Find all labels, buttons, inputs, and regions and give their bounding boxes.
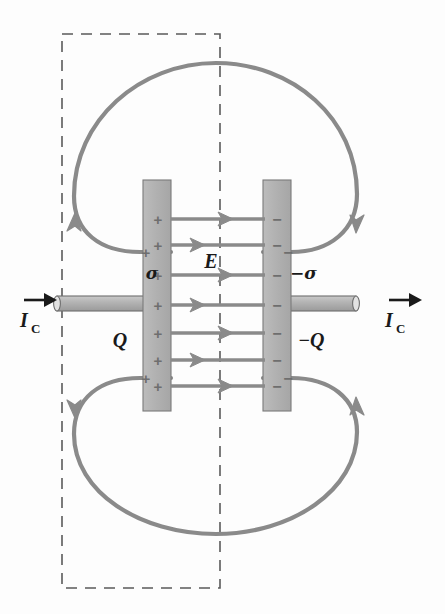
right-wire-end-cap: [353, 296, 360, 311]
minus-sign-icon: −: [272, 352, 281, 369]
figure-root: + + + + + + + + + − − − − − − − − − I: [0, 0, 445, 614]
electric-field-lines: [171, 212, 265, 393]
right-lead-wire: [289, 296, 359, 311]
loop-arrow-upper-right: [350, 215, 364, 233]
plus-sign-icon: +: [154, 297, 163, 314]
left-wire-end-cap: [54, 296, 61, 311]
charge-negative-label: −Q: [298, 329, 325, 351]
current-left-label: I: [19, 309, 29, 331]
plus-sign-icon: +: [154, 325, 163, 342]
electric-field-label: E: [203, 250, 217, 272]
current-right-label: I: [384, 309, 394, 331]
plus-sign-icon: +: [154, 211, 163, 228]
minus-sign-icon: −: [272, 325, 281, 342]
current-right-subscript: C: [396, 321, 405, 336]
plus-sign-icon: +: [154, 378, 163, 395]
minus-sign-icon: −: [272, 237, 281, 254]
minus-sign-icon: −: [272, 297, 281, 314]
plus-sign-icon: +: [154, 237, 163, 254]
minus-sign-icon: −: [272, 267, 281, 284]
field-line: [171, 212, 265, 226]
minus-sign-icon: −: [272, 211, 281, 228]
field-line: [171, 238, 265, 252]
current-left-annotation: I C: [19, 293, 57, 336]
minus-sign-icon: −: [283, 370, 292, 387]
plus-sign-icon: +: [142, 244, 151, 261]
field-line: [171, 353, 265, 367]
field-line: [171, 326, 265, 340]
minus-sign-icon: −: [272, 378, 281, 395]
plus-sign-icon: +: [154, 352, 163, 369]
magnetic-field-loop-lower: [67, 378, 364, 534]
physics-diagram: + + + + + + + + + − − − − − − − − − I: [0, 0, 445, 614]
current-right-annotation: I C: [384, 293, 422, 336]
magnetic-field-loop-upper: [67, 63, 364, 252]
sigma-negative-label: −σ: [290, 263, 317, 283]
charge-positive-label: Q: [113, 329, 127, 351]
current-right-arrowhead-icon: [409, 293, 422, 307]
field-line: [171, 379, 265, 393]
field-line: [171, 268, 265, 282]
sigma-positive-label: σ: [146, 263, 159, 283]
plus-sign-icon: +: [142, 370, 151, 387]
current-left-subscript: C: [31, 321, 40, 336]
field-line: [171, 298, 265, 312]
left-lead-wire: [54, 296, 145, 311]
minus-sign-icon: −: [283, 244, 292, 261]
